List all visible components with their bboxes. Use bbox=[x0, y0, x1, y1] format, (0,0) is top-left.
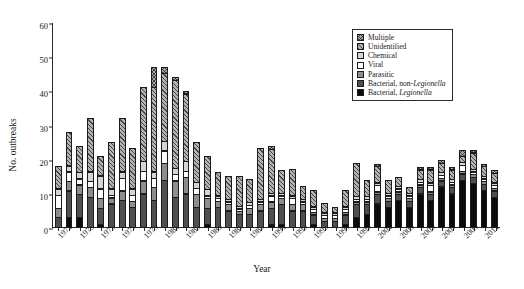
bar-slot bbox=[330, 23, 341, 227]
stacked-bar[interactable] bbox=[278, 170, 285, 227]
bar-segment-bactnon bbox=[246, 214, 253, 228]
bar-segment-unident bbox=[66, 132, 73, 166]
bar-segment-legionella bbox=[342, 224, 349, 227]
stacked-bar[interactable] bbox=[193, 142, 200, 227]
stacked-bar[interactable] bbox=[364, 180, 371, 227]
legend-label: Unidentified bbox=[368, 43, 406, 51]
stacked-bar[interactable] bbox=[332, 207, 339, 227]
stacked-bar[interactable] bbox=[97, 156, 104, 227]
bar-segment-legionella bbox=[385, 207, 392, 228]
stacked-bar[interactable] bbox=[417, 167, 424, 227]
bar-slot bbox=[234, 23, 245, 227]
stacked-bar[interactable] bbox=[172, 77, 179, 227]
legend-item[interactable]: Bacterial, Legionella bbox=[357, 88, 446, 97]
bar-segment-unident bbox=[108, 142, 115, 190]
stacked-bar[interactable] bbox=[459, 150, 466, 227]
bar-segment-unident bbox=[183, 94, 190, 162]
bar-segment-bactnon bbox=[87, 197, 94, 228]
bar-segment-bactnon bbox=[236, 214, 243, 228]
legend-item[interactable]: Viral bbox=[357, 61, 446, 70]
stacked-bar[interactable] bbox=[310, 190, 317, 227]
bar-segment-bactnon bbox=[321, 221, 328, 228]
bar-segment-legionella bbox=[395, 200, 402, 227]
stacked-bar[interactable] bbox=[151, 67, 158, 227]
stacked-bar[interactable] bbox=[55, 166, 62, 227]
bar-slot bbox=[202, 23, 213, 227]
stacked-bar[interactable] bbox=[257, 148, 264, 227]
bar-segment-unident bbox=[97, 156, 104, 177]
bar-segment-bactnon bbox=[268, 208, 275, 225]
bar-segment-unident bbox=[119, 118, 126, 173]
legend-swatch-unident bbox=[357, 43, 364, 50]
legend-item[interactable]: Bacterial, non-Legionella bbox=[357, 79, 446, 88]
bar-slot bbox=[117, 23, 128, 227]
bar-segment-bactnon bbox=[161, 180, 168, 228]
legend-item[interactable]: Multiple bbox=[357, 33, 446, 42]
stacked-bar[interactable] bbox=[438, 160, 445, 227]
bar-segment-legionella bbox=[310, 224, 317, 227]
legend-swatch-legionella bbox=[357, 89, 364, 96]
stacked-bar[interactable] bbox=[427, 167, 434, 227]
stacked-bar[interactable] bbox=[321, 203, 328, 227]
stacked-bar[interactable] bbox=[353, 163, 360, 227]
legend-swatch-bactnon bbox=[357, 80, 364, 87]
bar-slot bbox=[319, 23, 330, 227]
stacked-bar[interactable] bbox=[395, 177, 402, 228]
bar-segment-unident bbox=[204, 156, 211, 190]
stacked-bar[interactable] bbox=[342, 190, 349, 227]
stacked-bar[interactable] bbox=[470, 150, 477, 227]
stacked-bar[interactable] bbox=[268, 146, 275, 227]
bar-segment-bactnon bbox=[119, 200, 126, 227]
stacked-bar[interactable] bbox=[119, 118, 126, 227]
stacked-bar[interactable] bbox=[289, 169, 296, 227]
stacked-bar[interactable] bbox=[481, 164, 488, 227]
stacked-bar[interactable] bbox=[161, 67, 168, 227]
bar-segment-unident bbox=[225, 176, 232, 200]
bar-segment-bactnon bbox=[353, 204, 360, 218]
bar-segment-unident bbox=[140, 87, 147, 162]
stacked-bar[interactable] bbox=[374, 164, 381, 227]
bar-segment-legionella bbox=[406, 207, 413, 228]
bar-slot bbox=[287, 23, 298, 227]
bar-segment-unident bbox=[151, 87, 158, 172]
bar-segment-unident bbox=[193, 142, 200, 183]
stacked-bar[interactable] bbox=[87, 118, 94, 227]
stacked-bar[interactable] bbox=[449, 167, 456, 227]
y-axis-label: No. outbreaks bbox=[8, 85, 18, 205]
legend-item[interactable]: Parasitic bbox=[357, 70, 446, 79]
stacked-bar[interactable] bbox=[183, 91, 190, 227]
stacked-bar[interactable] bbox=[129, 148, 136, 227]
legend-item[interactable]: Chemical bbox=[357, 51, 446, 60]
bar-segment-legionella bbox=[427, 200, 434, 227]
stacked-bar[interactable] bbox=[140, 87, 147, 227]
bar-slot bbox=[468, 23, 479, 227]
y-tick-label: 20 bbox=[22, 159, 53, 168]
stacked-bar[interactable] bbox=[236, 176, 243, 227]
stacked-bar[interactable] bbox=[76, 146, 83, 227]
stacked-bar[interactable] bbox=[225, 176, 232, 227]
bar-segment-viral bbox=[161, 151, 168, 165]
bar-slot bbox=[213, 23, 224, 227]
stacked-bar[interactable] bbox=[66, 132, 73, 227]
stacked-bar[interactable] bbox=[108, 142, 115, 227]
bar-segment-legionella bbox=[364, 214, 371, 228]
stacked-bar[interactable] bbox=[406, 187, 413, 227]
bar-segment-bactnon bbox=[332, 221, 339, 228]
stacked-bar[interactable] bbox=[246, 179, 253, 227]
bar-segment-viral bbox=[55, 195, 62, 209]
bar-slot bbox=[159, 23, 170, 227]
bar-segment-unident bbox=[236, 176, 243, 207]
stacked-bar[interactable] bbox=[300, 186, 307, 227]
stacked-bar[interactable] bbox=[204, 156, 211, 227]
stacked-bar[interactable] bbox=[215, 172, 222, 227]
bar-segment-unident bbox=[374, 166, 381, 183]
bar-segment-legionella bbox=[353, 217, 360, 227]
bar-slot bbox=[308, 23, 319, 227]
bar-segment-unident bbox=[300, 186, 307, 200]
stacked-bar[interactable] bbox=[385, 180, 392, 227]
bar-segment-bactnon bbox=[300, 211, 307, 228]
bar-segment-bactnon bbox=[151, 200, 158, 227]
stacked-bar[interactable] bbox=[491, 170, 498, 227]
bar-segment-viral bbox=[119, 178, 126, 192]
legend-item[interactable]: Unidentified bbox=[357, 42, 446, 51]
